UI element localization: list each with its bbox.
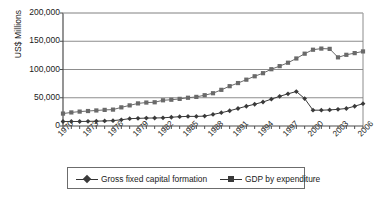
legend-label: GDP by expenditure — [245, 174, 320, 184]
chart-legend: Gross fixed capital formation GDP by exp… — [67, 167, 305, 189]
legend-marker-square-icon — [220, 174, 242, 184]
legend-label: Gross fixed capital formation — [101, 174, 207, 184]
legend-item-gross-fixed-capital-formation[interactable]: Gross fixed capital formation — [76, 172, 207, 186]
legend-marker-diamond-icon — [76, 174, 98, 184]
legend-item-gdp-by-expenditure[interactable]: GDP by expenditure — [220, 172, 320, 186]
